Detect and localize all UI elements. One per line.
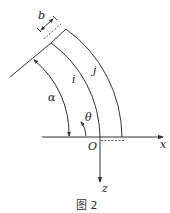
label-origin: O [88, 140, 97, 153]
label-j: j [90, 64, 97, 77]
label-i: i [72, 73, 76, 86]
diagonal-boundary-line [10, 43, 51, 77]
b-tick-right [53, 16, 57, 20]
label-theta: θ [85, 111, 92, 124]
label-z: z [101, 182, 108, 195]
diagram-figure: b i j α θ O x z 图 2 [0, 0, 170, 213]
theta-arrow [81, 122, 86, 136]
label-b: b [38, 9, 45, 22]
b-tick-left [37, 28, 41, 32]
figure-caption: 图 2 [76, 199, 98, 212]
label-alpha: α [48, 91, 56, 104]
label-x: x [160, 138, 167, 151]
